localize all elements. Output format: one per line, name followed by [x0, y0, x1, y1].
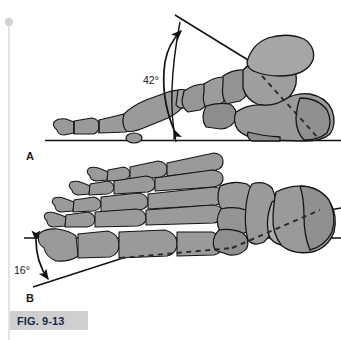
- toe-rays-dorsal: [38, 153, 225, 261]
- midfoot-tarsals-dorsal: [213, 182, 276, 255]
- page-binding-artifact: [5, 18, 13, 340]
- anatomical-figure-svg: [0, 0, 341, 340]
- figure-caption-banner: FIG. 9-13: [10, 311, 88, 330]
- calcaneus-dorsal: [273, 186, 335, 253]
- panel-a-lateral-foot: [45, 15, 341, 143]
- tibia-lateral: [247, 35, 314, 76]
- panel-b-dorsal-foot: [24, 153, 341, 287]
- metatarsal-lateral: [123, 90, 191, 144]
- panel-label-a: A: [26, 150, 34, 162]
- angle-label-16: 16°: [14, 264, 30, 276]
- phalanges-lateral: [53, 114, 132, 135]
- angle-label-42: 42°: [143, 74, 159, 86]
- figure-caption-text: FIG. 9-13: [17, 315, 64, 327]
- panel-label-b: B: [26, 292, 34, 304]
- figure-container: A B 42° 16° FIG. 9-13: [0, 0, 341, 340]
- sesamoid-bone: [126, 133, 142, 143]
